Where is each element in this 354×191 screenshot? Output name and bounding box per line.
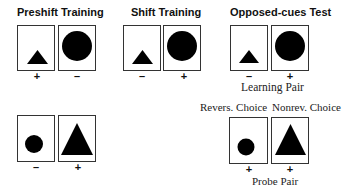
- small-triangle-icon: [231, 26, 269, 72]
- learning-pair-caption: Learning Pair: [241, 81, 304, 93]
- small-triangle-icon: [18, 26, 56, 72]
- probe-right-card: [271, 117, 309, 164]
- preshift-bottom-right-sign: +: [68, 161, 88, 173]
- preshift-title: Preshift Training: [17, 6, 104, 18]
- opposed-title: Opposed-cues Test: [230, 6, 331, 18]
- nonrev-choice-label: Nonrev. Choice: [272, 101, 341, 113]
- small-triangle-icon: [124, 26, 162, 72]
- large-triangle-icon: [59, 116, 97, 163]
- preshift-left-card: [17, 25, 55, 71]
- shift-left-sign: –: [132, 70, 152, 82]
- opposed-left-card: [230, 25, 268, 71]
- shift-right-card: [163, 25, 201, 71]
- preshift-bottom-left-sign: –: [26, 161, 46, 173]
- large-circle-icon: [59, 26, 97, 72]
- preshift-bottom-right-card: [58, 115, 96, 162]
- small-circle-icon: [230, 118, 269, 165]
- small-circle-icon: [18, 116, 56, 163]
- preshift-bottom-left-card: [17, 115, 55, 162]
- large-circle-icon: [164, 26, 202, 72]
- large-triangle-icon: [272, 118, 310, 165]
- probe-pair-caption: Probe Pair: [252, 175, 298, 187]
- preshift-right-sign: –: [67, 70, 87, 82]
- preshift-right-card: [58, 25, 96, 71]
- preshift-left-sign: +: [27, 70, 47, 82]
- large-circle-icon: [272, 26, 310, 72]
- probe-left-sign: +: [239, 163, 259, 175]
- probe-left-card: [229, 117, 268, 164]
- opposed-right-card: [271, 25, 309, 71]
- shift-title: Shift Training: [131, 6, 201, 18]
- revers-choice-label: Revers. Choice: [200, 101, 267, 113]
- shift-left-card: [123, 25, 161, 71]
- probe-right-sign: +: [280, 163, 300, 175]
- shift-right-sign: +: [174, 70, 194, 82]
